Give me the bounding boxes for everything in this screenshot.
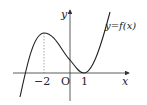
tick-label-neg2: −2 bbox=[34, 75, 50, 88]
cubic-graph: −2 O 1 x y y=f(x) bbox=[0, 0, 147, 105]
x-axis-label: x bbox=[122, 75, 129, 88]
curve-label: y=f(x) bbox=[104, 20, 136, 31]
y-axis-label: y bbox=[60, 8, 68, 21]
tick-label-1: 1 bbox=[81, 75, 88, 88]
origin-label: O bbox=[61, 75, 70, 88]
